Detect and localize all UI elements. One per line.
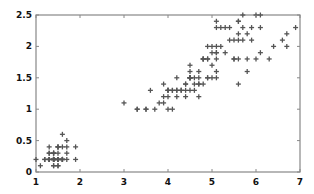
plus-marker (214, 75, 219, 80)
x-tick-label: 4 (165, 177, 171, 187)
plus-marker (258, 50, 263, 55)
plus-marker (240, 25, 245, 30)
x-tick-label: 1 (33, 177, 39, 187)
plus-marker (240, 13, 245, 18)
plus-marker (232, 56, 237, 61)
plus-marker (64, 157, 69, 162)
plus-marker (188, 69, 193, 74)
plus-marker (47, 157, 52, 162)
plus-marker (179, 88, 184, 93)
plus-marker (188, 63, 193, 68)
plus-marker (170, 88, 175, 93)
plus-marker (284, 44, 289, 49)
plus-marker (267, 56, 272, 61)
plus-marker (166, 88, 171, 93)
plus-marker (196, 82, 201, 87)
plus-marker (210, 75, 215, 80)
plus-marker (174, 88, 179, 93)
plus-marker (56, 151, 61, 156)
plus-marker (245, 69, 250, 74)
plus-marker (51, 163, 56, 168)
x-tick-label: 6 (253, 177, 259, 187)
plus-marker (245, 31, 250, 36)
plus-marker (51, 151, 56, 156)
plus-marker (214, 19, 219, 24)
plus-marker (73, 157, 78, 162)
x-tick-label: 7 (297, 177, 303, 187)
plus-marker (227, 38, 232, 43)
y-tick-label: 0.5 (16, 136, 32, 146)
plus-marker (196, 75, 201, 80)
plus-marker (161, 94, 166, 99)
plus-marker (73, 144, 78, 149)
y-tick-label: 0 (26, 167, 32, 177)
plus-marker (249, 25, 254, 30)
plus-marker (271, 44, 276, 49)
plus-marker (201, 56, 206, 61)
plus-marker (254, 56, 259, 61)
plus-marker (210, 44, 215, 49)
plus-marker (214, 50, 219, 55)
plus-marker (236, 82, 241, 87)
y-tick-label: 1 (26, 104, 32, 114)
scatter-chart: 1234567 00.511.522.5 (0, 0, 314, 194)
plus-marker (64, 151, 69, 156)
plus-marker (42, 157, 47, 162)
plus-marker (258, 13, 263, 18)
plus-marker (218, 44, 223, 49)
plus-marker (214, 44, 219, 49)
plus-marker (227, 25, 232, 30)
plus-marker (196, 69, 201, 74)
plus-marker (122, 100, 127, 105)
plus-marker (192, 75, 197, 80)
plus-marker (188, 88, 193, 93)
plus-marker (258, 25, 263, 30)
plus-marker (183, 94, 188, 99)
plus-marker (214, 25, 219, 30)
data-points (34, 13, 299, 169)
plus-marker (56, 144, 61, 149)
x-axis: 1234567 (33, 15, 303, 187)
plus-marker (245, 56, 250, 61)
plus-marker (192, 88, 197, 93)
plus-marker (223, 25, 228, 30)
plus-marker (183, 82, 188, 87)
plus-marker (166, 107, 171, 112)
plus-marker (218, 25, 223, 30)
plus-marker (56, 157, 61, 162)
plus-marker (210, 50, 215, 55)
x-tick-label: 3 (121, 177, 127, 187)
y-tick-label: 1.5 (16, 73, 32, 83)
plus-marker (148, 88, 153, 93)
plus-marker (144, 107, 149, 112)
plus-marker (232, 38, 237, 43)
plus-marker (174, 94, 179, 99)
plus-marker (236, 38, 241, 43)
plus-marker (34, 157, 39, 162)
plus-marker (60, 132, 65, 137)
plus-marker (170, 107, 175, 112)
plus-marker (201, 82, 206, 87)
plus-marker (161, 82, 166, 87)
plus-marker (240, 38, 245, 43)
y-tick-label: 2.5 (16, 10, 32, 20)
plus-marker (280, 38, 285, 43)
plus-marker (205, 44, 210, 49)
plus-marker (47, 151, 52, 156)
plus-marker (38, 163, 43, 168)
plus-marker (166, 94, 171, 99)
plus-marker (152, 107, 157, 112)
plus-marker (157, 100, 162, 105)
y-tick-label: 2 (26, 41, 32, 51)
plus-marker (236, 31, 241, 36)
plus-marker (135, 107, 140, 112)
plus-marker (174, 75, 179, 80)
plus-marker (56, 163, 61, 168)
plus-marker (210, 63, 215, 68)
plus-marker (249, 38, 254, 43)
plus-marker (192, 82, 197, 87)
plus-marker (205, 56, 210, 61)
plus-marker (60, 157, 65, 162)
plus-marker (284, 31, 289, 36)
plus-marker (188, 75, 193, 80)
